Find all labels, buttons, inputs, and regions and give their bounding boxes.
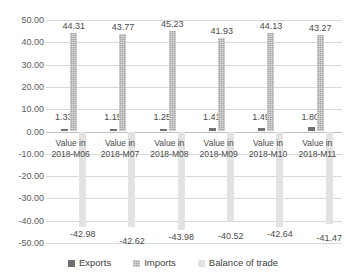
- x-axis-label-line: 2018-M08: [145, 149, 194, 160]
- bar-group: 1.3344.31-42.98: [46, 20, 95, 243]
- data-label-imports: 43.27: [300, 23, 340, 33]
- bar-imports[interactable]: [317, 35, 324, 131]
- x-axis-label: Value in2018-M11: [293, 138, 342, 159]
- data-label-imports: 43.77: [103, 22, 143, 32]
- legend-label: Balance of trade: [209, 258, 278, 268]
- bar-group: 1.4944.13-42.64: [243, 20, 292, 243]
- gridline: [46, 243, 342, 244]
- x-axis-label-line: 2018-M07: [95, 149, 144, 160]
- bar-group: 1.1543.77-42.62: [95, 20, 144, 243]
- data-label-exports: 1.49: [241, 112, 281, 122]
- y-axis-tick-label: -50.00: [0, 239, 44, 248]
- x-axis-label-line: Value in: [145, 138, 194, 149]
- y-axis-tick-label: 0.00: [0, 127, 44, 136]
- x-axis-label-line: Value in: [194, 138, 243, 149]
- bar-chart: 50.0040.0030.0020.0010.000.00-10.00-20.0…: [0, 0, 346, 280]
- y-axis-tick-label: 50.00: [0, 16, 44, 25]
- bar-exports[interactable]: [308, 127, 315, 131]
- bar-group: 1.8043.27-41.47: [293, 20, 342, 243]
- data-label-exports: 1.33: [44, 112, 84, 122]
- legend-label: Exports: [79, 258, 111, 268]
- bar-exports[interactable]: [209, 128, 216, 131]
- legend-item[interactable]: Imports: [133, 258, 176, 268]
- x-axis-label: Value in2018-M08: [145, 138, 194, 159]
- y-axis-tick-label: -30.00: [0, 194, 44, 203]
- data-label-imports: 44.13: [251, 21, 291, 31]
- y-axis-tick-label: -40.00: [0, 216, 44, 225]
- x-axis-label-line: 2018-M10: [243, 149, 292, 160]
- y-axis-tick-label: 20.00: [0, 82, 44, 91]
- x-axis-label: Value in2018-M09: [194, 138, 243, 159]
- legend-swatch-icon: [133, 260, 140, 267]
- x-axis-label-line: 2018-M11: [293, 149, 342, 160]
- data-label-exports: 1.15: [93, 112, 133, 122]
- bar-imports[interactable]: [70, 33, 77, 132]
- x-axis-label-line: 2018-M09: [194, 149, 243, 160]
- legend-item[interactable]: Exports: [68, 258, 111, 268]
- x-axis-label: Value in2018-M06: [46, 138, 95, 159]
- data-label-imports: 41.93: [202, 26, 242, 36]
- data-label-imports: 44.31: [54, 21, 94, 31]
- y-axis-tick-label: 10.00: [0, 105, 44, 114]
- bar-exports[interactable]: [61, 129, 68, 132]
- legend-item[interactable]: Balance of trade: [198, 258, 278, 268]
- y-axis-tick-label: -10.00: [0, 149, 44, 158]
- y-axis-tick-label: 40.00: [0, 38, 44, 47]
- x-axis-label-line: Value in: [95, 138, 144, 149]
- bar-imports[interactable]: [218, 38, 225, 132]
- legend-label: Imports: [144, 258, 176, 268]
- bar-imports[interactable]: [169, 31, 176, 132]
- bar-group: 1.2545.23-43.98: [145, 20, 194, 243]
- x-axis-label-line: Value in: [293, 138, 342, 149]
- data-label-exports: 1.25: [142, 112, 182, 122]
- chart-legend: ExportsImportsBalance of trade: [0, 258, 346, 268]
- bar-imports[interactable]: [119, 34, 126, 132]
- y-axis-tick-label: 30.00: [0, 60, 44, 69]
- data-label-exports: 1.80: [290, 112, 330, 122]
- y-axis: 50.0040.0030.0020.0010.000.00-10.00-20.0…: [0, 20, 44, 243]
- bar-imports[interactable]: [267, 33, 274, 131]
- legend-swatch-icon: [198, 260, 205, 267]
- data-label-exports: 1.41: [192, 112, 232, 122]
- x-axis-label-line: Value in: [243, 138, 292, 149]
- bar-exports[interactable]: [160, 129, 167, 132]
- data-label-balance-of-trade: -41.47: [309, 233, 346, 243]
- x-axis-label: Value in2018-M07: [95, 138, 144, 159]
- bar-exports[interactable]: [258, 128, 265, 131]
- plot-area: 1.3344.31-42.981.1543.77-42.621.2545.23-…: [46, 20, 342, 243]
- data-label-imports: 45.23: [152, 19, 192, 29]
- legend-swatch-icon: [68, 260, 75, 267]
- y-axis-tick-label: -20.00: [0, 172, 44, 181]
- x-axis-label-line: Value in: [46, 138, 95, 149]
- bar-group: 1.4141.93-40.52: [194, 20, 243, 243]
- bar-exports[interactable]: [110, 129, 117, 132]
- x-axis-label-line: 2018-M06: [46, 149, 95, 160]
- x-axis-label: Value in2018-M10: [243, 138, 292, 159]
